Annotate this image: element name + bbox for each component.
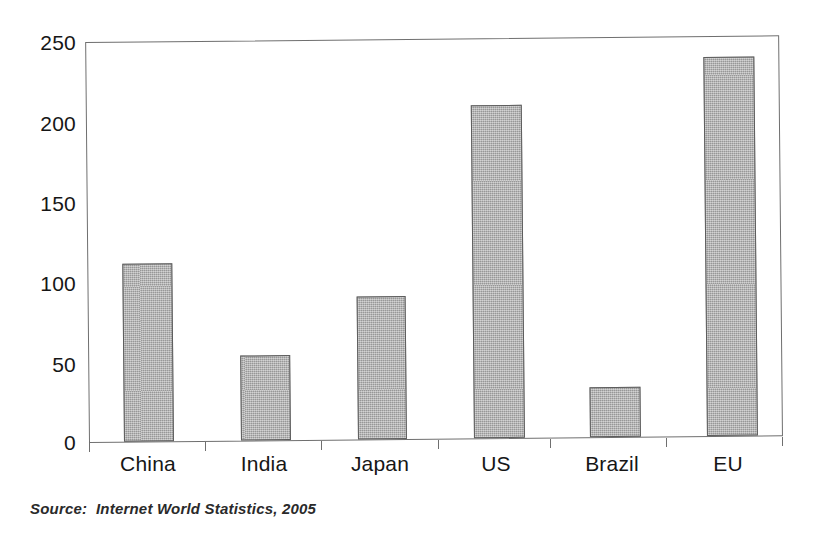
x-tick-4 [550,439,551,448]
x-tick-0 [89,443,90,452]
bar-chart-figure: 250 200 150 100 50 0 China India Japan U… [0,0,817,537]
x-tick-5 [666,438,667,447]
x-tick-6 [782,437,783,446]
source-note: Source: Internet World Statistics, 2005 [30,500,316,517]
x-tick-1 [205,442,206,451]
x-tick-3 [438,440,439,449]
x-axis-label-eu: EU [658,452,798,476]
x-tick-2 [321,441,322,450]
